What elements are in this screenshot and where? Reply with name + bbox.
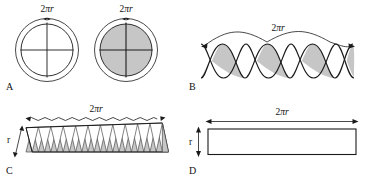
- circle-shaded: 2πr: [95, 4, 158, 82]
- dim-label-a2: 2πr: [119, 4, 133, 14]
- triangle-up-end: [162, 123, 168, 152]
- arrowhead-bottom-c-side: [13, 152, 18, 158]
- arrowhead-left-a2: [122, 17, 125, 20]
- dim-label-b: 2πr: [271, 23, 285, 33]
- dim-label-d-side: r: [189, 137, 193, 147]
- arrowhead-left-c-top: [26, 117, 31, 122]
- unrolled-rectangle: [208, 129, 356, 155]
- side-dimension-line-c: [16, 129, 22, 155]
- arrowhead-top-d-side: [196, 127, 201, 133]
- panel-d: 2πr r D: [183, 90, 367, 181]
- arrowhead-right-d-top: [353, 119, 359, 124]
- circle-unshaded: 2πr: [16, 4, 79, 82]
- arrowhead-right-a1: [47, 17, 50, 20]
- panel-label-d: D: [189, 165, 196, 176]
- triangle-strip: [26, 123, 169, 152]
- figure-root: 2πr 2πr A: [0, 0, 367, 181]
- dim-label-c-side: r: [7, 135, 11, 145]
- arrowhead-bottom-d-side: [196, 151, 201, 157]
- dim-label-d-top: 2πr: [275, 107, 289, 117]
- dim-label-c-top: 2πr: [89, 104, 103, 114]
- panel-a: 2πr 2πr A: [0, 0, 184, 92]
- dim-label-a1: 2πr: [40, 4, 54, 14]
- arrowhead-right-c-top: [160, 116, 165, 121]
- arrowhead-right-a2: [126, 17, 129, 20]
- arrowhead-top-c-side: [19, 126, 24, 132]
- panel-c: 2πr r C: [0, 90, 184, 181]
- wavy-dimension-line-c: [28, 118, 157, 121]
- arrowhead-left-a1: [43, 17, 46, 20]
- arrowhead-left-d-top: [206, 119, 212, 124]
- panel-label-c: C: [6, 165, 13, 176]
- panel-b: 2πr B: [183, 0, 367, 92]
